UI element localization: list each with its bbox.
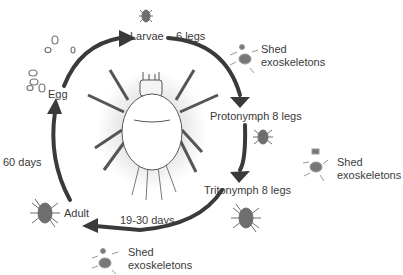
arrow-head-tritonymph [230,171,250,183]
shed-label-2-line1: Shed [337,156,363,168]
shed-label-1-line1: Shed [261,43,287,55]
protonymph-mite-icon [253,130,273,144]
shed-exoskeleton-icon-3 [92,249,118,275]
duration-19-30-days-label: 19-30 days [120,214,174,226]
shed-label-3-line2: exoskeletons [128,259,192,271]
arrow-adult-to-egg [53,112,70,200]
adult-mite-illustration [88,70,218,200]
shed-label-2-line2: exoskeletons [337,169,401,181]
shed-label-3-line1: Shed [128,246,154,258]
duration-60-days-label: 60 days [3,156,42,168]
stage-adult-label: Adult [64,207,89,219]
tritonymph-mite-icon [231,204,261,232]
larvae-mite-icon [139,10,153,22]
shed-exoskeleton-icon-1 [230,45,258,74]
shed-exoskeleton-icon-2 [303,149,328,181]
larvae-legs-label: 6 legs [176,30,205,42]
stage-larvae-label: Larvae [130,30,164,42]
arrow-head-adult [82,218,98,233]
eggs-icon [27,36,75,92]
arrow-protonymph-to-tritonymph [240,125,245,170]
shed-label-1-line2: exoskeletons [261,56,325,68]
arrow-head-protonymph [230,97,250,108]
stage-protonymph-label: Protonymph 8 legs [210,110,302,122]
stage-egg-label: Egg [48,88,68,100]
arrow-egg-to-larvae [64,38,120,86]
arrow-head-egg [47,98,62,114]
adult-mite-icon [30,199,60,227]
stage-tritonymph-label: Tritonymph 8 legs [204,184,291,196]
